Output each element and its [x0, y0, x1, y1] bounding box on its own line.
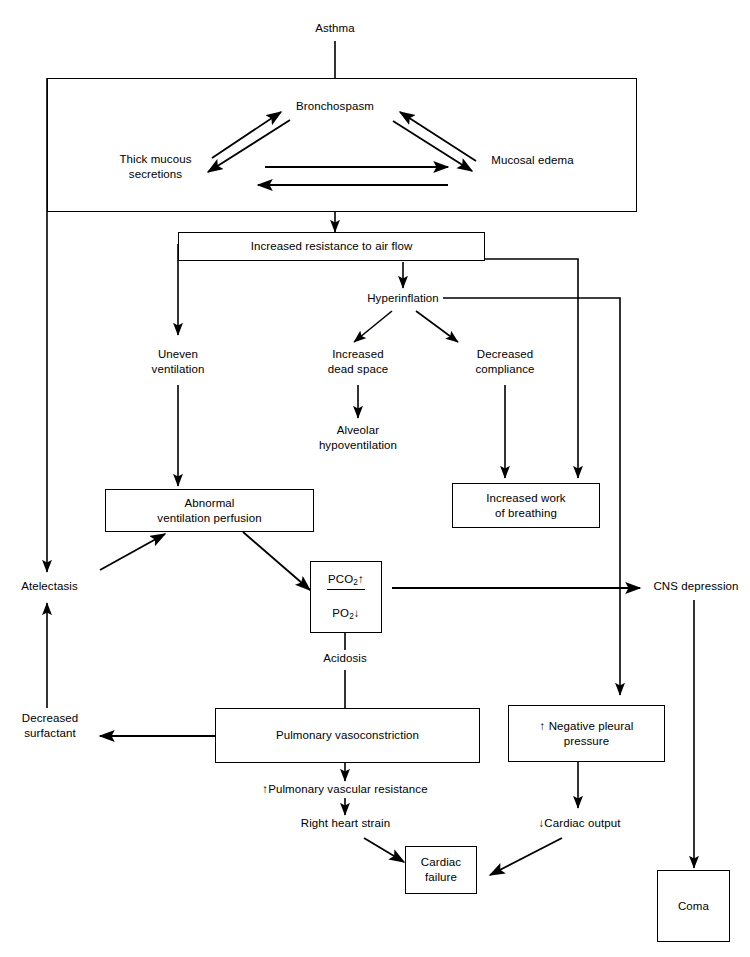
node-pulmonary-vasoconstriction[interactable]: Pulmonary vasoconstriction: [215, 708, 480, 763]
asthma-pathophysiology-flowchart: Asthma Bronchospasm Thick mucous secreti…: [0, 0, 750, 957]
edge-abnormal-vq-to-gas: [243, 532, 310, 590]
edge-atelectasis-to-abnormal-vq: [100, 534, 165, 570]
node-right-heart-strain[interactable]: Right heart strain: [283, 816, 408, 831]
pco2-line: PCO2↑: [327, 572, 365, 590]
blood-gas-fraction: PCO2↑ PO2↓: [327, 558, 365, 636]
po2-line: PO2↓: [327, 605, 365, 622]
node-thick-mucous-secretions[interactable]: Thick mucous secretions: [103, 152, 208, 182]
node-coma[interactable]: Coma: [657, 870, 730, 942]
node-decreased-compliance[interactable]: Decreased compliance: [455, 347, 555, 377]
node-negative-pleural-pressure[interactable]: ↑ Negative pleural pressure: [508, 705, 665, 762]
node-acidosis[interactable]: Acidosis: [305, 651, 385, 666]
po2-label: PO2: [332, 607, 354, 619]
pco2-up-arrow-icon: ↑: [358, 573, 364, 585]
node-cardiac-failure[interactable]: Cardiac failure: [405, 846, 477, 894]
node-uneven-ventilation[interactable]: Uneven ventilation: [128, 347, 228, 377]
node-alveolar-hypoventilation[interactable]: Alveolar hypoventilation: [303, 423, 413, 453]
edge-cardiac-output-to-cardiac-failure: [490, 838, 562, 875]
node-increased-work-of-breathing[interactable]: Increased work of breathing: [452, 483, 600, 528]
node-mucosal-edema[interactable]: Mucosal edema: [480, 153, 585, 168]
po2-down-arrow-icon: ↓: [354, 607, 360, 619]
node-bronchospasm[interactable]: Bronchospasm: [290, 99, 380, 114]
node-pulmonary-vascular-resistance[interactable]: ↑Pulmonary vascular resistance: [240, 782, 450, 797]
node-cns-depression[interactable]: CNS depression: [646, 579, 746, 594]
node-blood-gas-box[interactable]: PCO2↑ PO2↓: [310, 561, 382, 633]
edge-hyperinflation-to-compliance: [416, 311, 458, 342]
node-cardiac-output[interactable]: ↓Cardiac output: [522, 816, 637, 831]
node-increased-resistance[interactable]: Increased resistance to air flow: [178, 232, 485, 261]
edge-hyperinflation-to-dead-space: [354, 311, 392, 342]
node-decreased-surfactant[interactable]: Decreased surfactant: [5, 711, 95, 741]
node-increased-dead-space[interactable]: Increased dead space: [308, 347, 408, 377]
node-asthma[interactable]: Asthma: [295, 21, 375, 36]
pco2-label: PCO2: [328, 573, 358, 585]
edge-right-heart-strain-to-cardiac-failure: [364, 838, 404, 862]
node-abnormal-ventilation-perfusion[interactable]: Abnormal ventilation perfusion: [105, 489, 314, 532]
node-hyperinflation[interactable]: Hyperinflation: [358, 291, 448, 306]
node-atelectasis[interactable]: Atelectasis: [7, 579, 92, 594]
